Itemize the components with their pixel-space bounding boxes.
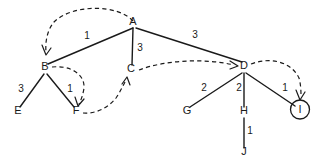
dashed-arrow-f-to-c-head [122, 77, 130, 85]
dashed-arrow-f-to-c [83, 80, 126, 113]
edge-a-b [48, 28, 133, 64]
node-g[interactable]: G [183, 104, 192, 116]
edge-a-d [136, 28, 242, 62]
traversal-arrows [42, 8, 305, 113]
edge-weight-a-b: 1 [84, 30, 90, 41]
edge-weight-d-i: 1 [282, 82, 288, 93]
edge-weight-a-d: 3 [192, 29, 198, 40]
edge-weight-d-h: 2 [236, 82, 242, 93]
edge-weight-h-j: 1 [247, 125, 253, 136]
node-a[interactable]: A [129, 15, 137, 27]
node-f[interactable]: F [73, 104, 80, 116]
node-i[interactable]: I [298, 103, 301, 115]
node-d[interactable]: D [240, 59, 248, 71]
node-b[interactable]: B [41, 60, 48, 72]
edge-weight-d-g: 2 [201, 82, 207, 93]
edge-weight-b-f: 1 [67, 83, 73, 94]
edge-weight-b-e: 3 [18, 83, 24, 94]
node-e[interactable]: E [14, 104, 21, 116]
tree-edges [20, 28, 295, 148]
edge-weight-a-c: 3 [137, 42, 143, 53]
edge-a-c [132, 28, 133, 65]
edge-weight-labels: 1 3 3 3 1 2 2 1 1 [18, 29, 288, 136]
edge-d-g [190, 73, 242, 107]
node-h[interactable]: H [240, 104, 248, 116]
node-c[interactable]: C [127, 62, 135, 74]
dashed-arrow-c-to-d [139, 61, 234, 70]
graph-canvas: 1 3 3 3 1 2 2 1 1 A B C D E F G H I J [0, 0, 322, 168]
dashed-arrow-a-to-b-head [42, 45, 51, 55]
node-j[interactable]: J [241, 145, 247, 157]
dashed-arrow-d-to-i [251, 61, 301, 97]
graph-diagram: 1 3 3 3 1 2 2 1 1 A B C D E F G H I J [0, 0, 322, 168]
